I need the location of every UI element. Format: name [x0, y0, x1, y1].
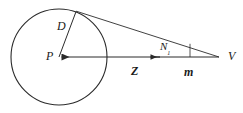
label-segment-vector-m: m	[184, 66, 193, 78]
label-axis-vector-Z: Z	[131, 65, 138, 77]
tangent-line	[76, 11, 219, 57]
label-center-point-P: P	[46, 50, 53, 62]
label-vertex-point-V: V	[228, 50, 235, 62]
diagram-canvas	[0, 0, 243, 113]
label-normal-vector-subscript: 1	[167, 50, 170, 56]
geometry-diagram: P D V N1 Z m	[0, 0, 243, 113]
label-radius-D: D	[57, 20, 66, 32]
label-normal-vector-N: N1	[160, 41, 170, 54]
